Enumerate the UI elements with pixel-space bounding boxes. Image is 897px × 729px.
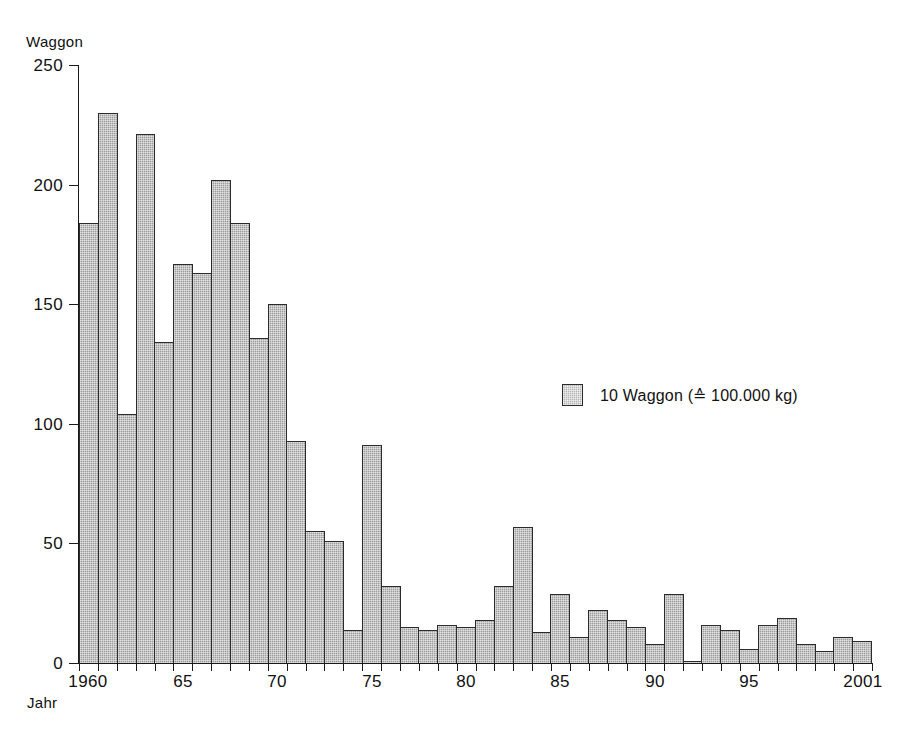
x-axis-tick	[815, 664, 816, 671]
plot-area	[79, 65, 872, 663]
x-axis-tick	[834, 664, 835, 671]
bar	[796, 644, 816, 663]
bar	[211, 180, 231, 663]
x-axis-tick	[211, 664, 212, 671]
bar-chart: Waggon Jahr 050100150200250 196065707580…	[0, 0, 897, 729]
x-axis-tick-label: 1960	[68, 672, 107, 692]
bar-series	[79, 65, 872, 663]
x-axis-tick	[683, 664, 684, 671]
bar	[192, 273, 212, 663]
x-axis-tick	[513, 664, 514, 671]
legend-swatch-icon	[562, 384, 583, 406]
bar	[305, 531, 325, 663]
bar	[701, 625, 721, 663]
bar	[400, 627, 420, 663]
x-axis-tick	[759, 664, 760, 671]
bar	[683, 661, 703, 663]
bar	[607, 620, 627, 663]
bar	[286, 441, 306, 663]
x-axis-tick	[494, 664, 495, 671]
x-axis-tick	[532, 664, 533, 671]
x-axis-tick	[438, 664, 439, 671]
bar	[588, 610, 608, 663]
bar	[249, 338, 269, 663]
x-axis-tick	[343, 664, 344, 671]
x-axis-tick	[664, 664, 665, 671]
x-axis-tick	[381, 664, 382, 671]
bar	[268, 304, 288, 663]
bar	[117, 414, 137, 663]
y-axis-tick: 150	[69, 304, 78, 305]
bar	[343, 630, 363, 663]
x-axis-tick-label: 85	[550, 672, 570, 692]
bar	[833, 637, 853, 663]
x-axis-tick	[98, 664, 99, 671]
x-axis-tick	[419, 664, 420, 671]
y-axis-tick-label: 200	[33, 176, 63, 196]
bar	[98, 113, 118, 663]
x-axis-tick	[702, 664, 703, 671]
y-axis-tick: 0	[69, 663, 78, 664]
bar	[569, 637, 589, 663]
bar	[532, 632, 552, 663]
x-axis-tick	[872, 664, 873, 671]
x-axis-tick	[853, 664, 854, 671]
bar	[758, 625, 778, 663]
x-axis-tick	[79, 664, 80, 671]
x-axis-tick	[249, 664, 250, 671]
x-axis-tick	[796, 664, 797, 671]
y-axis-tick: 200	[69, 185, 78, 186]
x-axis-tick	[551, 664, 552, 671]
y-axis-title: Waggon	[26, 33, 83, 50]
bar	[154, 342, 174, 663]
y-axis-tick: 250	[69, 65, 78, 66]
x-axis-title: Jahr	[27, 694, 57, 711]
x-axis-tick	[400, 664, 401, 671]
x-axis-tick	[230, 664, 231, 671]
bar	[494, 586, 514, 663]
x-axis-tick	[778, 664, 779, 671]
x-axis-tick	[457, 664, 458, 671]
x-axis-tick	[155, 664, 156, 671]
y-axis-tick: 50	[69, 543, 78, 544]
x-axis-tick-label: 80	[456, 672, 476, 692]
x-axis-tick	[268, 664, 269, 671]
x-axis-tick	[627, 664, 628, 671]
bar	[550, 594, 570, 663]
x-axis-tick	[608, 664, 609, 671]
x-axis-tick	[306, 664, 307, 671]
bar	[475, 620, 495, 663]
bar	[173, 264, 193, 663]
y-axis-tick-label: 150	[33, 295, 63, 315]
x-axis-tick-label: 75	[362, 672, 382, 692]
x-axis-tick	[570, 664, 571, 671]
x-axis-tick	[740, 664, 741, 671]
bar	[362, 445, 382, 663]
x-axis-tick	[287, 664, 288, 671]
bar	[418, 630, 438, 663]
y-axis-tick-label: 100	[33, 415, 63, 435]
bar	[136, 134, 156, 663]
x-axis-tick-label: 65	[173, 672, 193, 692]
bar	[815, 651, 835, 663]
y-axis-tick: 100	[69, 424, 78, 425]
bar	[381, 586, 401, 663]
legend: 10 Waggon (≙ 100.000 kg)	[562, 384, 798, 406]
x-axis-tick-label: 2001	[843, 672, 882, 692]
bar	[626, 627, 646, 663]
x-axis-tick	[362, 664, 363, 671]
bar	[645, 644, 665, 663]
x-axis-tick	[476, 664, 477, 671]
bar	[720, 630, 740, 663]
bar	[739, 649, 759, 663]
legend-label: 10 Waggon (≙ 100.000 kg)	[600, 386, 798, 405]
x-axis-tick	[192, 664, 193, 671]
bar	[79, 223, 99, 663]
bar	[664, 594, 684, 663]
x-axis-tick	[324, 664, 325, 671]
x-axis-tick	[136, 664, 137, 671]
y-axis-tick-label: 0	[53, 654, 63, 674]
x-axis-tick	[117, 664, 118, 671]
bar	[324, 541, 344, 663]
bar	[852, 641, 872, 663]
